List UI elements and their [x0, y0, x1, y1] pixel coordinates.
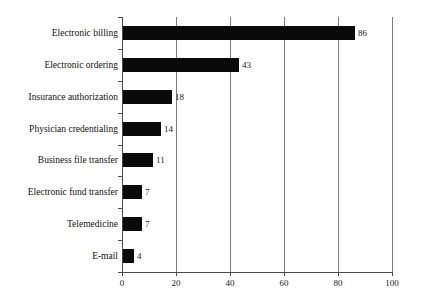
category-label: Business file transfer [6, 153, 122, 167]
y-tick-mark-2 [118, 81, 123, 82]
bar-value-label: 86 [358, 26, 367, 40]
bar [123, 26, 355, 40]
y-tick-mark-5 [118, 176, 123, 177]
bar-value-label: 18 [175, 90, 184, 104]
bar-chart-figure: 020406080100 8643181411774 Electronic bi… [0, 0, 423, 308]
category-label-row: Business file transfer [0, 153, 122, 167]
bar-value-label: 43 [242, 58, 251, 72]
bar [123, 122, 161, 136]
bar [123, 249, 134, 263]
gridline-x-40 [230, 17, 231, 272]
gridline-x-60 [284, 17, 285, 272]
bar-value-label: 7 [145, 185, 150, 199]
bar [123, 90, 172, 104]
bar [123, 153, 153, 167]
category-label-row: E-mail [0, 249, 122, 263]
gridline-x-100 [392, 17, 393, 272]
y-tick-mark-6 [118, 208, 123, 209]
category-label: Electronic ordering [6, 58, 122, 72]
category-label-row: Electronic billing [0, 26, 122, 40]
gridline-x-20 [176, 17, 177, 272]
category-label: Electronic fund transfer [6, 185, 122, 199]
x-tick-label-60: 60 [269, 278, 299, 289]
y-tick-mark-7 [118, 240, 123, 241]
category-label-row: Electronic ordering [0, 58, 122, 72]
x-tick-label-40: 40 [215, 278, 245, 289]
bar-value-label: 7 [145, 217, 150, 231]
bar [123, 217, 142, 231]
x-tick-label-80: 80 [323, 278, 353, 289]
category-label: E-mail [6, 249, 122, 263]
gridline-x-80 [338, 17, 339, 272]
x-tick-mark-20 [176, 272, 177, 276]
y-tick-mark-3 [118, 113, 123, 114]
category-label-row: Electronic fund transfer [0, 185, 122, 199]
category-label: Insurance authorization [6, 90, 122, 104]
x-axis-line [122, 272, 393, 273]
x-tick-mark-80 [338, 272, 339, 276]
x-tick-mark-40 [230, 272, 231, 276]
y-tick-mark-0 [118, 17, 123, 18]
x-tick-label-0: 0 [107, 278, 137, 289]
category-label: Physician credentialing [6, 122, 122, 136]
y-tick-mark-1 [118, 49, 123, 50]
bar [123, 58, 239, 72]
bar-value-label: 4 [137, 249, 142, 263]
bar-value-label: 11 [156, 153, 165, 167]
category-label-row: Physician credentialing [0, 122, 122, 136]
category-label-row: Insurance authorization [0, 90, 122, 104]
category-label-row: Telemedicine [0, 217, 122, 231]
y-tick-mark-4 [118, 145, 123, 146]
x-tick-mark-100 [392, 272, 393, 276]
category-label: Telemedicine [6, 217, 122, 231]
y-tick-mark-8 [118, 272, 123, 273]
bar [123, 185, 142, 199]
bar-value-label: 14 [164, 122, 173, 136]
x-tick-label-20: 20 [161, 278, 191, 289]
category-label: Electronic billing [6, 26, 122, 40]
x-tick-label-100: 100 [377, 278, 407, 289]
x-tick-mark-60 [284, 272, 285, 276]
